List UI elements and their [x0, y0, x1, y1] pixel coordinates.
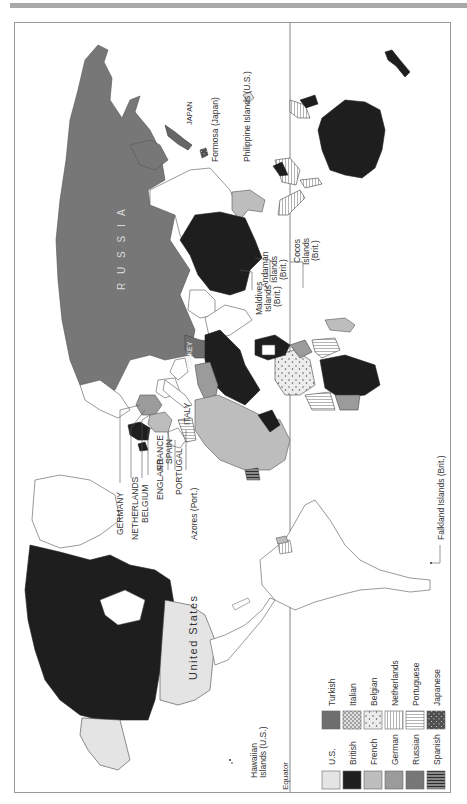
- region-madagascar-french: [325, 318, 355, 332]
- label-germany: GERMANY: [115, 492, 125, 535]
- region-java-dutch: [300, 178, 322, 188]
- region-africa-congo-belgian: [275, 350, 315, 395]
- region-africa-angola-portuguese: [305, 392, 335, 410]
- label-spain: SPAIN: [164, 439, 174, 464]
- region-alaska-us: [80, 718, 130, 770]
- region-australia-british: [318, 100, 385, 178]
- label-philippines: Philippine Islands (U.S.): [242, 71, 252, 162]
- region-south-america: [260, 500, 430, 610]
- legend-label-belgian: Belgian: [369, 677, 379, 706]
- legend-label-spanish: Spanish: [432, 734, 442, 765]
- legend-label-british: British: [348, 741, 358, 765]
- legend-swatch-german: [385, 771, 403, 789]
- region-africa-sw-german: [335, 395, 360, 410]
- legend-swatch-french: [364, 771, 382, 789]
- label-russia: R U S S I A: [116, 206, 127, 290]
- legend-swatch-italian: [343, 711, 361, 729]
- region-indochina-french: [232, 190, 265, 220]
- label-formosa: Formosa (Japan): [210, 97, 220, 162]
- legend-swatch-japanese: [427, 711, 445, 729]
- label-azores: Azores (Port.): [189, 487, 199, 540]
- region-scandinavia: [80, 380, 130, 418]
- region-cuba: [232, 598, 250, 610]
- label-maldives-3: (Brit.): [272, 286, 282, 307]
- legend-label-german: German: [390, 734, 400, 765]
- legend-swatch-british: [343, 771, 361, 789]
- region-africa-french: [195, 395, 290, 470]
- legend-swatch-portuguese: [406, 711, 424, 729]
- label-hawaii-2: Islands (U.S.): [258, 726, 268, 778]
- legend: U.S. British French German Russian Spani…: [322, 660, 445, 789]
- label-italy: ITALY: [182, 402, 192, 425]
- world-map: R U S S I A United States TURKEY ITALY J…: [0, 0, 467, 804]
- legend-swatch-netherlands: [385, 711, 403, 729]
- legend-label-portuguese: Portuguese: [411, 662, 421, 706]
- region-japan: [165, 125, 192, 150]
- legend-swatch-turkish: [322, 711, 340, 729]
- label-portugal: PORTUGAL: [174, 448, 184, 495]
- region-africa-south-british: [320, 355, 380, 398]
- region-india-british: [180, 212, 262, 295]
- label-united-states: United States: [187, 594, 199, 680]
- legend-swatch-russian: [406, 771, 424, 789]
- region-africa-mozambique-portuguese: [312, 338, 340, 358]
- hawaii-marker: [229, 759, 231, 761]
- region-greenland: [32, 475, 120, 548]
- label-equator: Equator: [281, 762, 290, 790]
- region-france: [148, 412, 172, 432]
- label-belgium: BELGIUM: [140, 485, 150, 523]
- region-canada-british: [25, 545, 175, 720]
- legend-label-russian: Russian: [411, 734, 421, 765]
- legend-swatch-spanish: [427, 771, 445, 789]
- label-cocos-3: (Brit.): [310, 240, 320, 261]
- legend-label-netherlands: Netherlands: [390, 660, 400, 706]
- legend-label-turkish: Turkish: [327, 678, 337, 706]
- legend-label-french: French: [369, 738, 379, 765]
- region-mexico: [210, 598, 275, 665]
- label-netherlands: NETHERLANDS: [130, 476, 140, 540]
- label-andaman-3: (Brit.): [278, 259, 288, 280]
- legend-swatch-us: [322, 771, 340, 789]
- region-new-zealand-british: [385, 50, 410, 77]
- region-ireland: [138, 442, 148, 451]
- region-africa-ethiopia: [262, 345, 275, 355]
- label-japan: JAPAN: [185, 101, 194, 125]
- legend-label-japanese: Japanese: [432, 669, 442, 706]
- label-turkey: TURKEY: [186, 341, 193, 370]
- legend-label-italian: Italian: [348, 683, 358, 706]
- label-falkland: Falkland Islands (Brit.): [436, 455, 446, 540]
- region-sumatra-dutch: [278, 190, 305, 215]
- region-korea-formosa: [200, 148, 208, 158]
- legend-label-us: U.S.: [327, 748, 337, 765]
- region-rio-de-oro-spanish: [245, 468, 260, 480]
- legend-swatch-belgian: [364, 711, 382, 729]
